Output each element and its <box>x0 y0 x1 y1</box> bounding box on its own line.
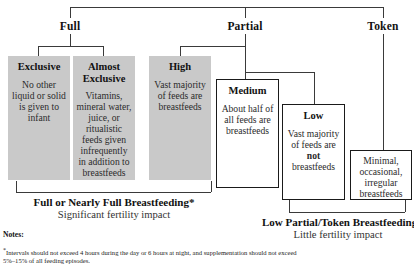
category-box-almost-exclusive: Almost Exclusive Vitamins, mineral water… <box>73 56 135 180</box>
tier-label-partial: Partial <box>215 20 275 32</box>
partial-split-high <box>180 46 245 47</box>
category-body-low-pre: Vast majority of feeds are <box>288 128 339 150</box>
partial-drop-high <box>180 46 181 56</box>
full-split-horizontal <box>38 46 103 47</box>
category-box-medium: Medium About half of all feeds are breas… <box>216 79 279 188</box>
breastfeeding-categories-diagram: Full Partial Token Exclusive No other li… <box>0 0 414 267</box>
right-bracket-left-arm <box>289 200 290 212</box>
category-body-medium: About half of all feeds are breastfeeds <box>220 103 275 136</box>
left-bracket-left-arm <box>16 181 17 192</box>
category-title-medium: Medium <box>220 85 275 97</box>
left-bracket-bottom <box>16 192 211 193</box>
right-bracket-bottom <box>289 212 405 213</box>
category-body-almost-exclusive: Vitamins, mineral water, juice, or ritua… <box>76 90 132 178</box>
right-summary-subheading: Little fertility impact <box>262 229 414 241</box>
right-bracket-right-arm <box>405 200 406 212</box>
tier-label-full: Full <box>40 20 100 32</box>
full-drop-almost-exclusive <box>103 46 104 56</box>
left-bracket-right-arm <box>211 181 212 192</box>
right-summary-heading: Low Partial/Token Breastfeeding <box>262 216 414 228</box>
category-box-token: Minimal, occasional, irregular breastfee… <box>350 150 412 200</box>
notes-label: Notes: <box>3 230 24 239</box>
category-box-exclusive: Exclusive No other liquid or solid is gi… <box>8 56 70 180</box>
root-stem-full <box>70 7 71 18</box>
partial-split-low <box>245 72 314 73</box>
category-body-low: Vast majority of feeds are not breastfee… <box>286 128 341 172</box>
category-body-low-post: breastfeeds <box>292 161 335 172</box>
category-box-low: Low Vast majority of feeds are not breas… <box>282 104 345 200</box>
root-stem-token <box>383 7 384 18</box>
category-body-exclusive: No other liquid or solid is given to inf… <box>11 79 67 123</box>
left-summary-subheading: Significant fertility impact <box>14 209 214 221</box>
category-title-high: High <box>152 61 208 73</box>
footnote-text: Intervals should not exceed 4 hours duri… <box>3 249 297 264</box>
category-body-token: Minimal, occasional, irregular breastfee… <box>354 155 408 199</box>
root-horizontal-connector <box>70 7 383 8</box>
token-stem-down <box>383 34 384 150</box>
root-stem-partial <box>245 7 246 18</box>
partial-drop-low <box>314 72 315 104</box>
tier-label-token: Token <box>353 20 413 32</box>
left-summary-heading: Full or Nearly Full Breastfeeding* <box>14 196 214 208</box>
category-body-low-emphasis: not <box>286 150 341 161</box>
category-title-almost-exclusive: Almost Exclusive <box>76 61 132 84</box>
full-drop-exclusive <box>38 46 39 56</box>
full-stem-down <box>70 34 71 46</box>
category-box-high: High Vast majority of feeds are breastfe… <box>149 56 211 180</box>
category-title-low: Low <box>286 110 341 122</box>
category-title-exclusive: Exclusive <box>11 61 67 73</box>
category-body-high: Vast majority of feeds are breastfeeds <box>152 79 208 112</box>
notes-footnote: *Intervals should not exceed 4 hours dur… <box>3 246 303 266</box>
